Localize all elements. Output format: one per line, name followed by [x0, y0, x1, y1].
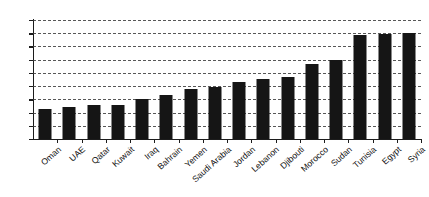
x-axis-tick-mark	[373, 139, 374, 143]
bar[interactable]	[354, 35, 367, 139]
bar-slot	[300, 20, 324, 139]
x-axis-tick-mark	[82, 139, 83, 143]
x-axis-tick-mark	[106, 139, 107, 143]
x-axis-category-label: Iraq	[143, 145, 160, 161]
bar[interactable]	[281, 77, 294, 139]
bar-slot	[82, 20, 106, 139]
bar[interactable]	[257, 79, 270, 139]
bar-slot	[397, 20, 421, 139]
bar[interactable]	[208, 87, 221, 139]
x-axis-tick-mark	[421, 139, 422, 143]
y-axis-tick-mark	[29, 139, 33, 140]
bar-slot	[57, 20, 81, 139]
bar-slot	[251, 20, 275, 139]
bar[interactable]	[87, 105, 100, 139]
bar-slot	[276, 20, 300, 139]
bar-slot	[324, 20, 348, 139]
bar[interactable]	[402, 33, 415, 139]
bar[interactable]	[111, 105, 124, 139]
x-axis-tick-mark	[179, 139, 180, 143]
bar[interactable]	[305, 64, 318, 139]
x-axis-category-label: Syria	[406, 145, 426, 164]
bar[interactable]	[330, 60, 343, 139]
x-axis-category-label: Egypt	[380, 145, 402, 166]
x-axis-tick-mark	[154, 139, 155, 143]
x-axis-category-label: Qatar	[90, 145, 112, 166]
bar-slot	[373, 20, 397, 139]
bar[interactable]	[184, 89, 197, 139]
bar-slot	[203, 20, 227, 139]
x-axis-tick-mark	[227, 139, 228, 143]
bar[interactable]	[136, 99, 149, 139]
x-axis-category-label: Bahrain	[156, 145, 184, 171]
bar-slot	[106, 20, 130, 139]
bar[interactable]	[378, 34, 391, 139]
x-axis-category-label: Kuwait	[111, 145, 136, 169]
bar[interactable]	[233, 82, 246, 139]
x-axis-category-label: Oman	[40, 145, 63, 167]
x-axis-tick-mark	[276, 139, 277, 143]
x-axis-tick-mark	[348, 139, 349, 143]
bar-slot	[227, 20, 251, 139]
bar-slot	[130, 20, 154, 139]
bar-slot	[179, 20, 203, 139]
x-axis-category-label: UAE	[68, 145, 87, 163]
x-axis-tick-mark	[300, 139, 301, 143]
bar-slot	[33, 20, 57, 139]
x-axis-category-label: Sudan	[330, 145, 354, 168]
x-axis-tick-mark	[203, 139, 204, 143]
x-axis-tick-mark	[397, 139, 398, 143]
bar[interactable]	[63, 107, 76, 139]
bar-slot	[348, 20, 372, 139]
x-axis-tick-mark	[130, 139, 131, 143]
x-axis-tick-mark	[57, 139, 58, 143]
x-axis-tick-mark	[251, 139, 252, 143]
bar-chart: 051015202530354045 OmanUAEQatarKuwaitIra…	[0, 0, 429, 197]
plot-area	[33, 20, 421, 139]
bar-slot	[154, 20, 178, 139]
bar[interactable]	[39, 109, 52, 139]
bar[interactable]	[160, 95, 173, 139]
x-axis-category-label: Tunisia	[352, 145, 378, 170]
x-axis-tick-mark	[324, 139, 325, 143]
